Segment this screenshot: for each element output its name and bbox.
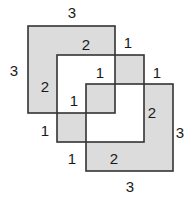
edge-length-label: 1: [153, 64, 161, 81]
shaded-regions: [28, 26, 173, 171]
edge-length-label: 1: [68, 150, 76, 167]
edge-length-label: 3: [126, 178, 134, 195]
edge-length-label: 3: [10, 62, 18, 79]
edge-length-label: 2: [41, 78, 49, 95]
edge-length-label: 3: [176, 124, 184, 141]
edge-length-label: 2: [148, 104, 156, 121]
edge-length-label: 1: [41, 122, 49, 139]
edge-length-label: 1: [70, 92, 78, 109]
overlapping-squares-diagram: 33221111231123: [0, 0, 188, 197]
edge-length-label: 1: [124, 34, 132, 51]
edge-length-label: 1: [96, 64, 104, 81]
edge-length-label: 3: [68, 4, 76, 21]
edge-length-label: 2: [82, 36, 90, 53]
edge-length-label: 2: [110, 150, 118, 167]
